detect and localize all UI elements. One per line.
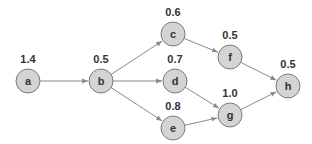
node-label: d — [172, 75, 179, 87]
graph-svg: a1.4b0.5c0.6d0.7e0.8f0.5g1.0h0.5 — [0, 0, 312, 144]
node-a[interactable]: a1.4 — [16, 53, 40, 93]
node-weight-label: 1.4 — [20, 53, 36, 65]
node-weight-label: 0.8 — [165, 100, 180, 112]
node-label: a — [25, 75, 32, 87]
node-e[interactable]: e0.8 — [161, 100, 185, 140]
node-label: g — [227, 109, 234, 121]
node-label: h — [285, 80, 292, 92]
node-b[interactable]: b0.5 — [89, 53, 113, 93]
node-weight-label: 0.5 — [222, 29, 237, 41]
edge-b-e — [111, 88, 162, 121]
node-g[interactable]: g1.0 — [218, 87, 242, 127]
node-h[interactable]: h0.5 — [276, 58, 300, 98]
node-label: c — [170, 28, 176, 40]
node-label: f — [228, 51, 232, 63]
node-f[interactable]: f0.5 — [218, 29, 242, 69]
node-weight-label: 0.6 — [165, 6, 180, 18]
node-c[interactable]: c0.6 — [161, 6, 185, 46]
edge-d-g — [185, 87, 219, 108]
edge-e-g — [185, 118, 218, 125]
edge-c-f — [184, 38, 218, 52]
edge-b-c — [111, 41, 162, 74]
node-weight-label: 0.5 — [280, 58, 295, 70]
nodes-layer: a1.4b0.5c0.6d0.7e0.8f0.5g1.0h0.5 — [16, 6, 300, 140]
node-weight-label: 0.7 — [167, 53, 182, 65]
node-label: b — [98, 75, 105, 87]
node-d[interactable]: d0.7 — [163, 53, 187, 93]
node-weight-label: 1.0 — [222, 87, 237, 99]
graph-canvas: a1.4b0.5c0.6d0.7e0.8f0.5g1.0h0.5 — [0, 0, 312, 144]
edge-g-h — [241, 92, 277, 110]
node-weight-label: 0.5 — [93, 53, 108, 65]
node-label: e — [170, 122, 176, 134]
edge-f-h — [241, 62, 277, 80]
